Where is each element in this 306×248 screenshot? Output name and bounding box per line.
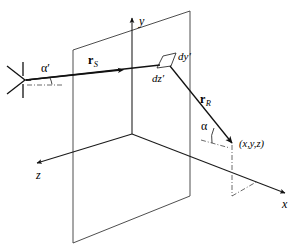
z-axis-line [37, 134, 132, 163]
scattering-angle-label: α [201, 119, 208, 133]
incident-vector-label: rS [88, 53, 99, 69]
y-axis: y [132, 14, 145, 134]
z-axis: z [35, 134, 132, 182]
observation-point-group: (x,y,z) [232, 138, 265, 196]
observation-point-ground-projection [232, 181, 258, 196]
differential-patch-outline [157, 53, 176, 68]
x-axis-label: x [281, 197, 288, 211]
y-axis-label: y [138, 14, 145, 28]
figure-root: y x z [0, 0, 306, 248]
incidence-angle-label: α′ [41, 61, 50, 75]
differential-surface-element: dy′ dz′ [152, 50, 191, 84]
z-axis-label: z [35, 168, 41, 182]
incident-ray: α′ rS [26, 53, 160, 85]
differential-width-label: dz′ [152, 72, 165, 84]
differential-height-label: dy′ [178, 50, 191, 62]
geometry-diagram: y x z [0, 0, 306, 248]
horn-antenna-icon-lower-flare [7, 80, 25, 94]
incident-vector-subscript: S [94, 59, 99, 69]
incidence-angle-arc [50, 78, 52, 85]
scattering-reference-line [201, 140, 230, 148]
horn-antenna-icon-upper-flare [7, 66, 25, 80]
scattered-ray: α rR [170, 66, 232, 148]
observation-point-label: (x,y,z) [239, 138, 265, 150]
scattered-vector-label: rR [200, 92, 212, 108]
scattered-vector-subscript: R [205, 98, 212, 108]
x-axis: x [132, 134, 288, 211]
scattering-angle-arc [211, 128, 214, 143]
